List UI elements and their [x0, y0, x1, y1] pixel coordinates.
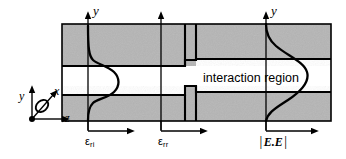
inset-z-label: z	[65, 112, 70, 124]
station-baseline-ticks	[88, 121, 266, 131]
inset-y-label: y	[19, 90, 24, 102]
station-3-axis-label: y	[271, 4, 277, 17]
field-magnitude-symbol: E.E	[264, 135, 283, 149]
epsilon-ri-label: εri	[85, 136, 95, 148]
inset-x-label: x	[54, 85, 59, 97]
interaction-region-label: interaction region	[203, 72, 299, 85]
epsilon-rr-label: εrr	[158, 136, 169, 148]
epsilon-ri-subscript: ri	[90, 140, 95, 149]
field-magnitude-label: |E.E|	[258, 135, 289, 149]
waveguide-interaction-region-figure: y y interaction region εri εrr |E.E| y x…	[0, 0, 346, 159]
station-1-axis-label: y	[93, 4, 99, 17]
field-magnitude-bar-right: |	[283, 134, 289, 149]
epsilon-rr-subscript: rr	[163, 140, 169, 149]
